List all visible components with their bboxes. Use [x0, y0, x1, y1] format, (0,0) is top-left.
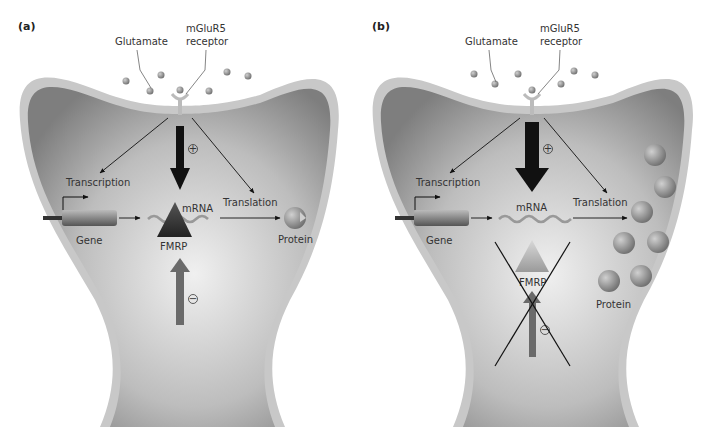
receptor-label-line2: receptor [186, 36, 229, 47]
panel-a: (a) Glutamate mGluR5 receptor + Transcri… [18, 20, 339, 427]
panel-b: (b) Glutamate mGluR5 receptor + Transcri… [372, 20, 693, 427]
receptor-label-line2: receptor [540, 36, 583, 47]
receptor-label-line1: mGluR5 [540, 23, 580, 34]
svg-text:+: + [189, 143, 197, 154]
translation-label: Translation [572, 197, 628, 208]
svg-text:−: − [189, 293, 197, 304]
mrna-label: mRNA [182, 203, 213, 214]
panel-label: (b) [372, 20, 390, 33]
protein-icon [284, 207, 306, 229]
gene-label: Gene [76, 235, 102, 246]
receptor-label-line1: mGluR5 [186, 23, 226, 34]
protein-label: Protein [278, 234, 313, 245]
fmrp-label: FMRP [160, 241, 187, 252]
gene-label: Gene [426, 235, 452, 246]
panel-label: (a) [18, 20, 35, 33]
minus-sign-icon: − [189, 293, 198, 304]
protein-label: Protein [596, 299, 631, 310]
glutamate-label: Glutamate [465, 36, 518, 47]
translation-label: Translation [222, 197, 278, 208]
plus-sign-icon: + [544, 143, 553, 154]
transcription-label: Transcription [65, 177, 130, 188]
fmrp-diagram: (a) Glutamate mGluR5 receptor + Transcri… [0, 0, 703, 427]
transcription-label: Transcription [415, 177, 480, 188]
glutamate-label: Glutamate [115, 36, 168, 47]
svg-text:+: + [544, 143, 552, 154]
glutamate-molecules [471, 68, 599, 94]
fmrp-label: FMRP [519, 277, 546, 288]
mrna-label: mRNA [516, 202, 547, 213]
plus-sign-icon: + [189, 143, 198, 154]
